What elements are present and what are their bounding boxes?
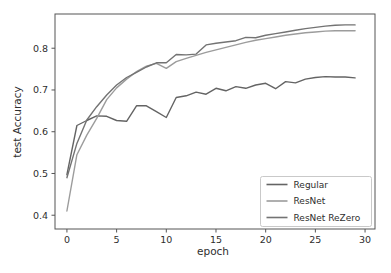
line-chart: 0510152025300.40.50.60.70.8RegularResNet…: [0, 0, 391, 273]
legend-label: ResNet: [294, 196, 326, 206]
y-axis-title: test Accuracy: [11, 86, 23, 157]
legend-label: Regular: [294, 180, 329, 190]
y-tick-label: 0.7: [33, 84, 48, 95]
legend-label: ResNet ReZero: [294, 213, 361, 223]
x-tick-label: 5: [114, 234, 120, 245]
x-tick-label: 30: [359, 234, 371, 245]
y-tick-label: 0.5: [33, 168, 48, 179]
x-tick-label: 10: [160, 234, 172, 245]
x-axis-title: epoch: [197, 245, 229, 257]
x-tick-label: 25: [309, 234, 321, 245]
series-line-resnet-rezero: [67, 25, 355, 178]
y-tick-label: 0.4: [33, 210, 48, 221]
x-tick-label: 20: [260, 234, 272, 245]
y-tick-label: 0.6: [33, 126, 48, 137]
y-tick-label: 0.8: [33, 43, 48, 54]
figure: 0510152025300.40.50.60.70.8RegularResNet…: [0, 0, 391, 273]
x-tick-label: 15: [210, 234, 222, 245]
plot-area: 0510152025300.40.50.60.70.8RegularResNet…: [33, 14, 375, 245]
x-tick-label: 0: [64, 234, 70, 245]
